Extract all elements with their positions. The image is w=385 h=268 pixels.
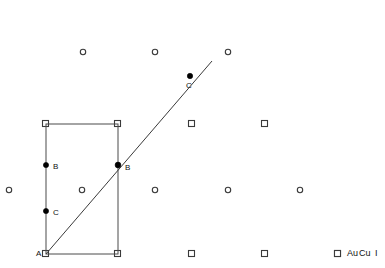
legend-element-cu: Cu [359, 248, 371, 258]
filled-dot-atom-c-upper [187, 73, 192, 78]
open-square-atom [189, 251, 195, 257]
label-C-left: C [53, 208, 59, 217]
structure-plot-svg: A B B C C Au Cu I [0, 0, 385, 268]
label-A: A [36, 249, 42, 258]
legend-phase-numeral: I [375, 248, 378, 258]
label-B-right: B [125, 163, 130, 172]
open-circle-atom [225, 49, 230, 54]
legend-element-au: Au [347, 248, 358, 258]
filled-dot-atom-b-right [115, 162, 121, 168]
open-circle-atom-group [6, 49, 302, 192]
open-circle-atom [6, 187, 11, 192]
crystal-structure-figure: A B B C C Au Cu I [0, 0, 385, 268]
open-square-atom-group [43, 121, 341, 257]
filled-dot-atom-b-left [43, 162, 48, 167]
open-circle-atom [152, 187, 157, 192]
open-square-atom [189, 121, 195, 127]
filled-dot-atom-c-left [43, 208, 48, 213]
open-circle-atom [225, 187, 230, 192]
legend-open-square-marker [335, 251, 341, 257]
label-C-upper: C [186, 81, 192, 90]
open-square-atom [262, 121, 268, 127]
open-circle-atom [297, 187, 302, 192]
legend: Au Cu I [335, 248, 378, 258]
open-square-atom [262, 251, 268, 257]
open-circle-atom [79, 187, 84, 192]
label-B-left: B [53, 162, 58, 171]
open-circle-atom [80, 49, 85, 54]
open-circle-atom [152, 49, 157, 54]
